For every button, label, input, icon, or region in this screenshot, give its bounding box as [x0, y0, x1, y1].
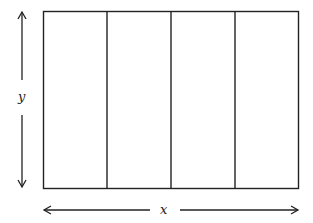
- strip-dividers: [107, 12, 235, 189]
- x-label: x: [160, 202, 168, 217]
- diagram-canvas: y x: [0, 0, 313, 223]
- y-label: y: [17, 89, 26, 104]
